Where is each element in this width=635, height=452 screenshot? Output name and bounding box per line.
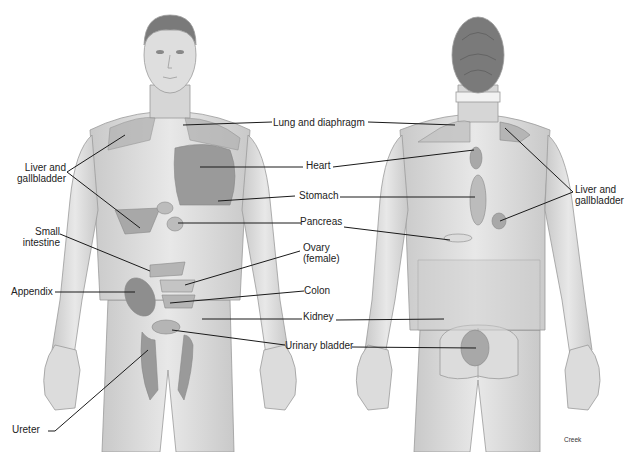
label-urinary-bladder: Urinary bladder bbox=[285, 340, 353, 351]
zone-small-intestine bbox=[150, 262, 185, 277]
illustrator-credit: Creek bbox=[564, 436, 581, 443]
zone-liver-back bbox=[492, 213, 506, 229]
label-small-intestine: Small intestine bbox=[12, 226, 60, 248]
zone-pancreas bbox=[167, 217, 183, 231]
label-liver-gallbladder-front: Liver and gallbladder bbox=[2, 162, 66, 184]
zone-stomach-back bbox=[470, 175, 486, 225]
label-appendix: Appendix bbox=[11, 286, 53, 297]
label-colon: Colon bbox=[304, 285, 330, 296]
label-liver-gallbladder-back: Liver and gallbladder bbox=[575, 184, 624, 206]
front-figure bbox=[44, 15, 297, 452]
label-ureter: Ureter bbox=[12, 424, 40, 435]
zone-pancreas-back bbox=[444, 234, 472, 242]
back-figure bbox=[356, 17, 600, 452]
label-ovary: Ovary (female) bbox=[303, 242, 340, 264]
zone-ovary bbox=[160, 280, 195, 292]
referred-pain-diagram: Liver and gallbladder Small intestine Ap… bbox=[0, 0, 635, 452]
label-heart: Heart bbox=[306, 160, 330, 171]
zone-stomach bbox=[157, 202, 173, 214]
label-pancreas: Pancreas bbox=[300, 216, 342, 227]
zone-bladder-front bbox=[152, 320, 180, 334]
label-kidney: Kidney bbox=[303, 311, 334, 322]
zone-heart bbox=[174, 144, 235, 205]
cropped-caption bbox=[0, 0, 230, 5]
label-lung-diaphragm: Lung and diaphragm bbox=[273, 117, 365, 128]
label-stomach: Stomach bbox=[299, 190, 338, 201]
